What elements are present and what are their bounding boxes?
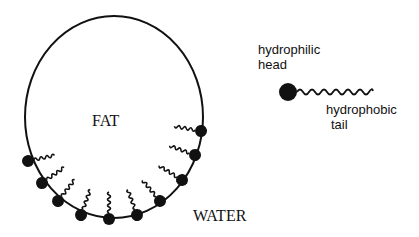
legend-molecule xyxy=(279,83,373,101)
surfactant-molecules xyxy=(21,120,208,225)
water-label: WATER xyxy=(193,207,247,224)
molecule xyxy=(73,188,96,223)
fat-droplet-diagram: FAT WATER hydrophilic head hydrophobic t… xyxy=(0,0,419,237)
molecule xyxy=(156,161,190,189)
hydrophilic-head-icon xyxy=(279,83,297,101)
tail-label-line2: tail xyxy=(331,117,348,132)
molecule xyxy=(138,176,168,209)
molecule xyxy=(21,150,56,169)
molecule xyxy=(168,140,203,163)
tail-label-line1: hydrophobic xyxy=(326,102,397,117)
head-label-line2: head xyxy=(258,57,287,72)
hydrophobic-tail-icon xyxy=(297,89,373,94)
head-label-line1: hydrophilic xyxy=(258,42,321,57)
molecule xyxy=(103,192,115,225)
fat-label: FAT xyxy=(92,112,119,129)
